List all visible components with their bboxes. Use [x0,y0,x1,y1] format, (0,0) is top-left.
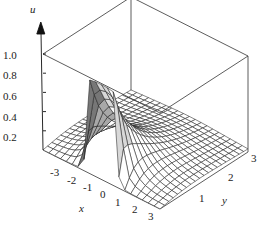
x-tick-label: -1 [83,182,92,193]
u-tick-label: 0.4 [3,112,17,123]
y-tick-label: 3 [251,153,257,164]
u-tick-label: 0.6 [3,91,17,102]
x-tick-label: 3 [148,211,154,222]
y-tick-label: 2 [228,172,234,183]
y-axis-label: y [222,195,227,206]
surface-mesh [43,80,248,209]
y-tick-label: 1 [199,193,205,204]
u-tick-label: 0.8 [3,70,17,81]
u-axis [37,22,46,150]
u-axis-label: u [30,4,36,15]
x-tick-label: -3 [50,167,59,178]
x-tick-label: -2 [67,175,76,186]
u-tick-label: 0.2 [3,132,17,143]
x-tick-label: 1 [115,197,121,208]
x-tick-label: 0 [100,189,106,200]
u-axis-arrow-icon [37,22,45,34]
u-tick-label: 1.0 [3,50,17,61]
x-axis-label: x [79,203,84,214]
x-tick-label: 2 [132,204,138,215]
surface-plot [0,0,272,225]
